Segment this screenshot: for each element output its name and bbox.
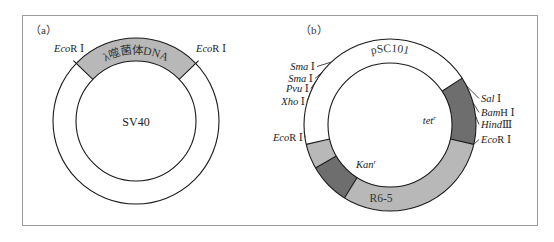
restriction-site-eco: EcoR Ⅰ [272, 132, 303, 143]
restriction-site-xho: Xho Ⅰ [280, 96, 305, 107]
restriction-site-sma: Sma Ⅰ [290, 61, 315, 72]
left-restriction-sites: Sma ⅠSma ⅠPvu ⅠXho ⅠEcoR Ⅰ [272, 61, 331, 143]
restriction-site-sal: Sal Ⅰ [481, 93, 501, 104]
sv40-label: SV40 [122, 115, 149, 129]
ecori-site-left: EcoR Ⅰ [53, 43, 84, 54]
site-tick [304, 134, 305, 138]
kan-r-label: Kanr [355, 158, 377, 170]
restriction-site-hind: HindⅢ [480, 119, 512, 130]
r6-5-label: R6-5 [370, 192, 393, 204]
restriction-site-pvu: Pvu Ⅰ [285, 83, 309, 94]
panel-a: （a） λ噬菌体DNA SV40 EcoR Ⅰ EcoR Ⅰ [30, 24, 226, 204]
panel-b-label: （b） [300, 24, 328, 36]
panel-a-label: （a） [30, 24, 57, 36]
plasmid-figure: （a） λ噬菌体DNA SV40 EcoR Ⅰ EcoR Ⅰ （b） pSC10… [0, 0, 554, 242]
panel-b: （b） pSC101 R6-5 tetr Kanr Sma ⅠSma ⅠPvu … [272, 24, 515, 211]
restriction-site-bam: BamH Ⅰ [481, 107, 515, 118]
psc101-label: pSC101 [369, 42, 410, 57]
psc101-inner-circle [328, 63, 452, 187]
ecori-site-right: EcoR Ⅰ [195, 43, 226, 54]
restriction-site-eco: EcoR Ⅰ [480, 134, 511, 145]
tet-r-label: tetr [423, 114, 437, 126]
